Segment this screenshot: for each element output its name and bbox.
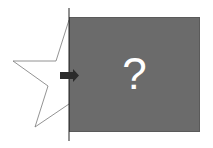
diagram-canvas: ?	[0, 0, 213, 148]
arrow-right-icon	[0, 0, 213, 148]
